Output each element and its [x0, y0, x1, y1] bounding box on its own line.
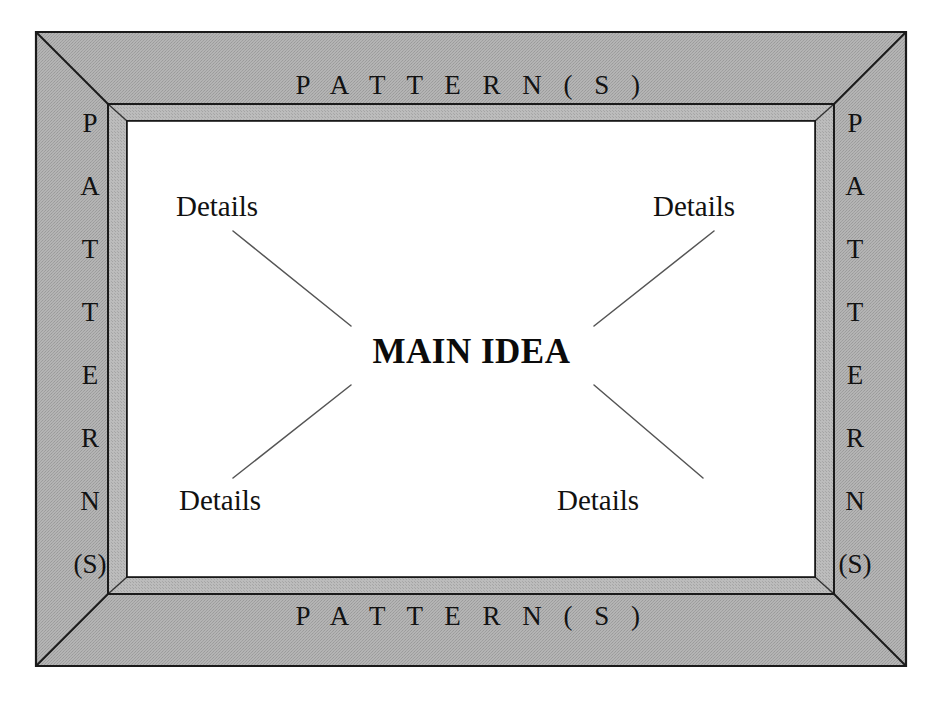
frame-label-right-letter: P — [847, 110, 862, 137]
diagram-canvas: P A T T E R N ( S ) P A T T E R N ( S ) … — [0, 0, 943, 707]
frame-label-left-letter: T — [82, 299, 99, 326]
details-label-top-right: Details — [653, 192, 735, 221]
frame-label-top: P A T T E R N ( S ) — [0, 72, 943, 99]
frame-label-right-letter: N — [845, 488, 865, 515]
frame-label-left-letter: R — [81, 425, 99, 452]
details-label-bottom-right: Details — [557, 486, 639, 515]
details-label-bottom-left: Details — [179, 486, 261, 515]
label-layer: P A T T E R N ( S ) P A T T E R N ( S ) … — [0, 0, 943, 707]
frame-label-bottom: P A T T E R N ( S ) — [0, 603, 943, 630]
frame-label-left-letter: P — [82, 110, 97, 137]
frame-label-right-letter: (S) — [839, 551, 872, 578]
details-label-top-left: Details — [176, 192, 258, 221]
frame-label-right-letter: R — [846, 425, 864, 452]
frame-label-left-letter: T — [82, 236, 99, 263]
frame-label-right-letter: T — [847, 236, 864, 263]
frame-label-left-letter: (S) — [74, 551, 107, 578]
frame-label-left-letter: N — [80, 488, 100, 515]
frame-label-right-letter: T — [847, 299, 864, 326]
frame-label-left-letter: A — [80, 173, 100, 200]
frame-label-right-letter: A — [845, 173, 865, 200]
main-idea-label: MAIN IDEA — [0, 334, 943, 369]
